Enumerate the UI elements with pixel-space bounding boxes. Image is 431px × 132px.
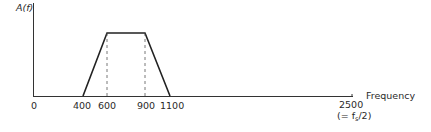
tick-label-600: 600 [98, 100, 116, 111]
tick-label-2500: 2500 [339, 99, 363, 110]
x-axis-label: Frequency [366, 90, 415, 101]
amplitude-spectrum-chart: A(f) Frequency 0 400 600 900 1100 2500 (… [0, 0, 431, 132]
tick-label-0: 0 [31, 100, 37, 111]
nyquist-note-prefix: (= f [337, 110, 356, 121]
y-axis-label: A(f) [15, 2, 33, 13]
nyquist-note-suffix: /2) [358, 110, 371, 121]
tick-label-1100: 1100 [160, 100, 184, 111]
passband-trapezoid [83, 33, 170, 96]
tick-label-900: 900 [137, 100, 155, 111]
nyquist-note: (= fs/2) [337, 110, 371, 123]
tick-label-400: 400 [73, 100, 91, 111]
